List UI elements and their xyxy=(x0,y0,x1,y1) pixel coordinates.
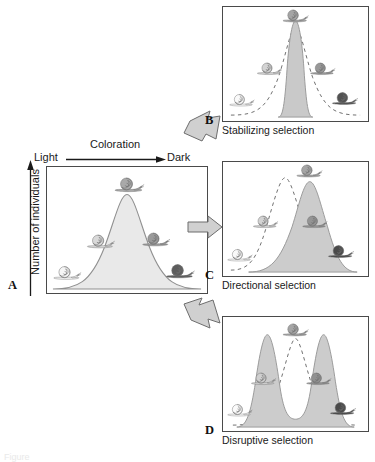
panel-d-caption: Disruptive selection xyxy=(222,434,313,446)
panel-a-letter: A xyxy=(8,278,17,293)
figure-root: Coloration Light Dark Number of individu… xyxy=(0,0,375,462)
x-axis-group: Coloration Light Dark xyxy=(30,138,214,166)
x-axis-title: Coloration xyxy=(90,138,140,150)
panel-d-chart xyxy=(223,317,368,431)
snail-darkest xyxy=(332,93,357,105)
panel-c-chart xyxy=(223,162,368,276)
panel-d-disruptive-selection xyxy=(222,316,369,432)
panel-b-caption: Stabilizing selection xyxy=(222,124,314,136)
panel-c-directional-selection xyxy=(222,161,369,277)
snail-medium xyxy=(297,165,322,177)
panel-b-stabilizing-selection xyxy=(222,6,369,122)
panel-d-letter: D xyxy=(205,423,214,438)
snail-medium xyxy=(283,10,308,22)
snail-dark xyxy=(311,63,335,75)
panel-a-original-population xyxy=(46,166,208,294)
snail-medium xyxy=(115,178,144,192)
panel-a-chart xyxy=(47,167,207,293)
snail-light xyxy=(257,63,281,75)
panel-c-letter: C xyxy=(205,268,214,283)
arrow-to-directional-icon xyxy=(186,214,224,240)
bottom-caption-partial: Figure xyxy=(4,452,30,462)
curve-b-selected-narrow xyxy=(278,21,313,117)
snail-lightest xyxy=(228,404,252,416)
panel-b-letter: B xyxy=(205,113,213,128)
y-axis-arrow-icon xyxy=(25,160,36,296)
snail-light xyxy=(253,216,277,228)
x-axis-arrow-icon xyxy=(66,154,166,165)
arrow-to-disruptive-icon xyxy=(182,296,224,332)
snail-darkest xyxy=(166,265,194,278)
snail-lightest xyxy=(54,267,81,280)
x-axis-label-dark: Dark xyxy=(167,151,190,163)
panel-c-caption: Directional selection xyxy=(222,279,316,291)
snail-lightest xyxy=(230,94,254,106)
panel-b-chart xyxy=(223,7,368,121)
snail-lightest xyxy=(228,249,252,261)
arrow-to-stabilizing-icon xyxy=(182,108,222,142)
snail-medium xyxy=(283,324,308,336)
